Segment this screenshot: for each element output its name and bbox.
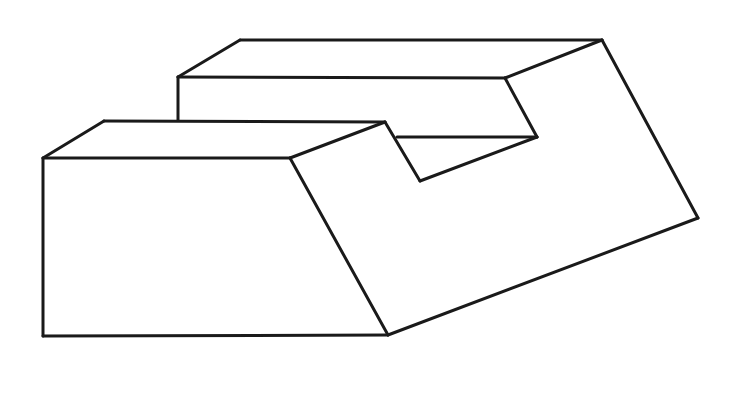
edge-FG	[43, 121, 104, 158]
edge-CD	[178, 77, 505, 78]
edge-FI	[104, 121, 385, 122]
edge-BD	[505, 40, 602, 78]
edge-NH	[290, 158, 388, 335]
edge-BM	[602, 40, 698, 218]
block-edges	[43, 40, 698, 336]
isometric-block-drawing	[0, 0, 731, 413]
edge-AC	[178, 40, 240, 77]
edge-ON	[43, 335, 388, 336]
edge-LJ	[420, 137, 537, 181]
edge-IL	[385, 122, 420, 181]
edge-DJ	[505, 78, 537, 137]
edge-HI	[290, 122, 385, 158]
edge-MN	[388, 218, 698, 335]
